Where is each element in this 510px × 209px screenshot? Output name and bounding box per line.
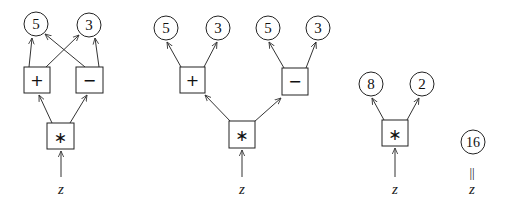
leaf-value: 5 — [264, 20, 272, 36]
edge-times-to-minus — [70, 95, 87, 123]
graph-shared-dag: 5 3 + − ∗ z — [24, 12, 103, 197]
asterisk-icon: ∗ — [54, 128, 67, 147]
edge-times-to-plus — [205, 95, 231, 122]
leaf-node: 2 — [410, 72, 434, 96]
edge-plus-to-3 — [46, 35, 79, 67]
asterisk-icon: ∗ — [388, 125, 401, 144]
edge-times-to-8 — [372, 98, 384, 120]
input-variable: z — [391, 181, 398, 197]
leaf-value: 3 — [214, 20, 222, 36]
edge-minus-to-3 — [95, 38, 99, 67]
asterisk-icon: ∗ — [235, 126, 248, 145]
plus-node: + — [180, 67, 205, 93]
leaf-value: 3 — [85, 17, 93, 33]
edge-plus-to-3 — [204, 42, 217, 67]
leaf-node: 5 — [24, 12, 48, 36]
leaf-value: 3 — [314, 20, 322, 36]
leaf-node: 5 — [154, 16, 178, 40]
minus-node: − — [282, 68, 308, 95]
leaf-value: 5 — [32, 16, 40, 32]
plus-node: + — [24, 67, 50, 93]
graph-result: 16 || z — [461, 130, 485, 197]
minus-node: − — [76, 67, 103, 93]
edge-minus-to-3 — [306, 42, 316, 68]
leaf-node: 16 — [461, 130, 485, 154]
times-node: ∗ — [229, 121, 255, 148]
minus-icon: − — [83, 71, 96, 90]
input-variable: z — [57, 181, 64, 197]
times-node: ∗ — [47, 123, 74, 149]
input-variable: z — [468, 181, 475, 197]
leaf-value: 2 — [418, 76, 426, 92]
plus-icon: + — [30, 71, 43, 90]
leaf-node: 5 — [256, 16, 280, 40]
graph-reduced: 8 2 ∗ z — [359, 72, 434, 197]
edge-times-to-2 — [407, 98, 419, 120]
leaf-node: 8 — [359, 72, 383, 96]
input-variable: z — [238, 181, 245, 197]
equals-symbol: || — [469, 165, 474, 180]
edge-times-to-plus — [39, 95, 52, 123]
leaf-node: 3 — [77, 13, 101, 37]
plus-icon: + — [186, 71, 199, 90]
leaf-value: 16 — [466, 135, 480, 150]
minus-icon: − — [288, 72, 301, 91]
leaf-node: 3 — [306, 16, 330, 40]
edge-times-to-minus — [254, 98, 281, 122]
times-node: ∗ — [382, 120, 408, 146]
leaf-value: 5 — [162, 20, 170, 36]
leaf-node: 3 — [206, 16, 230, 40]
edge-plus-to-5 — [167, 42, 181, 67]
leaf-value: 8 — [367, 76, 375, 92]
graph-expanded-tree: 5 3 5 3 + − ∗ z — [154, 16, 330, 197]
expression-graphs-diagram: 5 3 + − ∗ z 5 — [0, 0, 510, 209]
edge-plus-to-5 — [29, 38, 32, 67]
edge-minus-to-5 — [269, 42, 284, 68]
